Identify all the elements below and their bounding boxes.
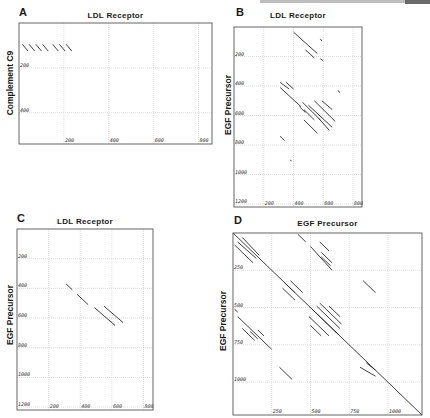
similarity-segment: [329, 306, 340, 316]
similarity-segment: [280, 136, 284, 140]
similarity-segment: [43, 44, 49, 51]
similarity-segment: [320, 59, 323, 61]
plot-border: [19, 23, 212, 144]
x-tick-label: 400: [295, 200, 304, 206]
panel-c-plot: 20040060080020040060080010001200: [17, 229, 153, 410]
similarity-segment: [29, 44, 35, 51]
similarity-segment: [320, 242, 329, 251]
scan-edge-dark: [405, 0, 430, 4]
x-tick-label: 600: [113, 403, 122, 409]
similarity-segment: [22, 44, 28, 51]
x-tick-label: 400: [110, 137, 119, 143]
y-tick-label: 600: [18, 312, 27, 318]
x-tick-label: 1000: [389, 408, 401, 414]
y-tick-label: 750: [234, 339, 243, 345]
similarity-segment: [66, 44, 72, 51]
similarity-segment: [310, 246, 332, 270]
x-tick-label: 250: [273, 408, 282, 414]
similarity-segment: [283, 288, 295, 300]
similarity-segment: [291, 160, 292, 161]
panel-b-plot: 20040060080020040060080010001200: [234, 27, 362, 207]
similarity-segment: [258, 330, 264, 336]
similarity-segment: [290, 281, 302, 293]
y-tick-label: 250: [234, 264, 243, 270]
panel-a-plot: 200400600800200400: [19, 23, 212, 144]
similarity-segment: [309, 317, 329, 336]
similarity-segment: [298, 234, 306, 241]
x-tick-label: 200: [50, 403, 59, 409]
similarity-segment: [104, 306, 123, 322]
x-tick-label: 800: [200, 137, 209, 143]
similarity-segment: [321, 252, 332, 262]
y-tick-label: 400: [20, 107, 29, 113]
y-tick-label: 800: [235, 139, 244, 145]
y-tick-label: 800: [18, 342, 27, 348]
similarity-segment: [53, 44, 59, 51]
y-tick-label: 1000: [234, 376, 246, 382]
panel-c-title: LDL Receptor: [17, 217, 153, 226]
panel-d-plot: 25050075010002505007501000: [233, 233, 422, 415]
x-tick-label: 200: [65, 137, 74, 143]
similarity-segment: [320, 39, 321, 41]
similarity-segment: [320, 303, 342, 324]
x-tick-label: 500: [311, 408, 320, 414]
similarity-segment: [308, 105, 332, 127]
x-tick-label: 750: [350, 408, 359, 414]
y-tick-label: 1000: [18, 371, 30, 377]
y-tick-label: 1000: [235, 169, 247, 175]
similarity-segment: [321, 257, 330, 266]
y-tick-label: 1200: [18, 401, 30, 407]
panel-d-ylabel: EGF Precursor: [218, 271, 228, 371]
similarity-segment: [366, 363, 375, 370]
similarity-segment: [36, 44, 42, 51]
x-tick-label: 200: [265, 200, 274, 206]
similarity-segment: [304, 110, 314, 120]
similarity-segment: [338, 90, 339, 92]
y-tick-label: 400: [18, 282, 27, 288]
x-tick-label: 800: [145, 403, 154, 409]
y-tick-label: 1200: [235, 198, 247, 204]
y-tick-label: 600: [235, 110, 244, 116]
x-tick-label: 600: [324, 200, 333, 206]
plot-border: [234, 27, 362, 207]
similarity-segment: [235, 309, 238, 312]
panel-a-title: LDL Receptor: [19, 11, 212, 20]
y-tick-label: 500: [234, 302, 243, 308]
y-tick-label: 400: [235, 80, 244, 86]
x-tick-label: 600: [155, 137, 164, 143]
y-tick-label: 200: [20, 62, 29, 68]
similarity-segment: [363, 281, 375, 293]
x-tick-label: 400: [81, 403, 90, 409]
y-tick-label: 200: [235, 51, 244, 57]
panel-a-ylabel: Complement C9: [5, 33, 15, 133]
similarity-segment: [94, 308, 115, 326]
panel-b-title: LDL Receptor: [234, 11, 362, 20]
panel-c-ylabel: EGF Precursor: [5, 265, 15, 365]
plot-border: [17, 229, 153, 410]
similarity-segment: [66, 284, 72, 290]
similarity-segment: [77, 294, 88, 304]
similarity-segment: [279, 367, 291, 379]
similarity-segment: [280, 87, 301, 106]
similarity-segment: [242, 237, 259, 255]
panel-d-title: EGF Precursor: [233, 219, 422, 228]
similarity-segment: [304, 120, 317, 133]
panel-b-ylabel: EGF Precursor: [223, 55, 233, 155]
y-tick-label: 200: [18, 253, 27, 259]
